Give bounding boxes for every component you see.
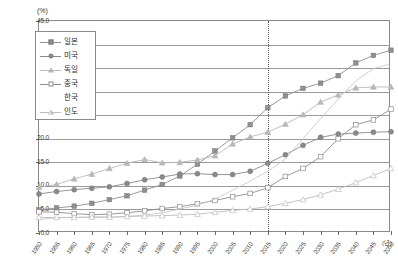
legend-marker-icon [40,80,61,89]
data-point [72,204,77,209]
x-axis-unit-label: (년) [382,238,392,247]
data-point [195,162,200,167]
y-axis-unit-label: (%) [37,7,48,14]
legend-item-일본[interactable]: 일본 [38,35,93,49]
data-point [248,191,253,196]
data-point [283,174,288,179]
legend-marker-square-open-icon [48,82,53,87]
data-point [301,143,306,148]
data-point [318,81,323,86]
data-point [388,166,394,171]
data-point [283,121,289,126]
data-point [72,187,77,192]
legend-item-label: 한국 [64,94,78,102]
data-point [389,48,394,53]
data-point [389,107,394,112]
data-point [318,99,324,104]
data-point [142,177,147,182]
data-point [336,73,341,78]
data-point [371,130,376,135]
data-point [265,129,271,134]
data-point [371,173,377,178]
data-point [107,184,112,189]
data-point [371,118,376,123]
x-axis-tick-label: 1950 [23,240,42,263]
data-point [177,172,182,177]
data-point [230,194,235,199]
data-point [354,61,359,66]
data-point [37,210,42,215]
data-point [266,185,271,190]
data-point [248,122,253,127]
data-point [89,186,94,191]
legend-item-label: 미국 [64,52,78,60]
data-point [160,206,165,211]
data-point [195,171,200,176]
data-point [353,131,358,136]
legend-item-label: 중국 [64,80,78,88]
data-point [107,197,112,202]
legend-marker-icon [40,108,61,117]
legend-item-label: 인도 [64,108,78,116]
data-point [125,181,130,186]
legend-item-한국[interactable]: 한국 [38,91,93,105]
data-point [230,172,235,177]
legend-marker-square-filled-icon [48,40,53,45]
legend: 일본미국독일중국한국인도 [35,31,96,120]
x-axis-tick-label: 2025 [287,240,306,263]
legend-marker-icon [40,66,61,75]
data-point [37,191,42,196]
data-point [266,105,271,110]
legend-marker-triangle-filled-icon [48,68,54,73]
x-axis-tick-label: 2000 [199,240,218,263]
data-point [283,94,288,99]
data-point [160,174,165,179]
data-point [300,112,306,117]
data-point [213,172,218,177]
data-point [318,135,323,140]
legend-marker-triangle-open-icon [48,110,54,115]
legend-item-독일[interactable]: 독일 [38,63,93,77]
data-point [90,201,95,206]
series-중국 [37,107,394,217]
data-point [354,122,359,127]
data-point [371,53,376,58]
legend-marker-icon [40,52,61,61]
data-point [142,157,148,162]
legend-marker-circle-filled-icon [48,54,53,59]
legend-item-label: 독일 [64,66,78,74]
data-point [142,188,147,193]
x-axis-tick-label: 1975 [111,240,130,263]
legend-marker-icon [40,38,61,47]
data-point [336,132,341,137]
aging-population-line-chart: (%) 45.040.035.030.025.020.015.010.05.00… [0,0,398,263]
legend-item-인도[interactable]: 인도 [38,105,93,119]
legend-item-label: 일본 [64,38,78,46]
data-point [301,86,306,91]
legend-marker-icon [40,94,61,103]
data-point [353,180,359,185]
data-point [160,182,165,187]
x-axis-tick [391,231,392,235]
data-point [248,169,253,174]
legend-item-중국[interactable]: 중국 [38,77,93,91]
data-point [301,166,306,171]
data-point [230,136,235,141]
data-point [230,141,236,146]
data-point [389,129,394,134]
data-point [212,153,218,158]
data-point [54,189,59,194]
data-point [336,136,341,141]
data-point [318,154,323,159]
data-point [265,161,270,166]
data-point [125,193,130,198]
legend-item-미국[interactable]: 미국 [38,49,93,63]
